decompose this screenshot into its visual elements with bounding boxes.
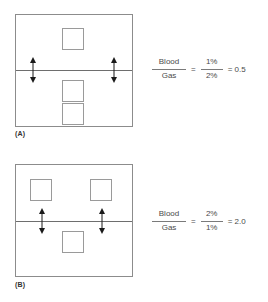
panel-b-compartment-box (15, 164, 133, 277)
panel-b-molecule-above-2 (90, 179, 112, 201)
blood-gas-partition-coefficient-figure: (A) Blood Gas = 1% 2% = 0.5 (0, 0, 268, 302)
panel-a-percent-numerator: 1% (201, 57, 223, 69)
panel-a-percent-denominator: 2% (201, 70, 223, 82)
panel-b-label: (B) (15, 281, 25, 288)
panel-a-label: (A) (15, 130, 25, 137)
panel-b-fraction-denominator: Gas (152, 222, 186, 234)
panel-b-percent-denominator: 1% (201, 222, 223, 234)
panel-a-percent-fraction: 1% 2% (201, 57, 223, 82)
panel-a: (A) Blood Gas = 1% 2% = 0.5 (0, 0, 268, 151)
panel-b-molecule-below-1 (62, 231, 84, 253)
panel-b-blood-gas-interface-line (16, 221, 132, 222)
panel-b-equals-sign: = (186, 217, 201, 226)
panel-a-equation: Blood Gas = 1% 2% = 0.5 (152, 57, 246, 82)
panel-a-equals-sign: = (186, 65, 201, 74)
panel-b-percent-fraction: 2% 1% (201, 209, 223, 234)
panel-a-exchange-arrow-right (108, 57, 120, 83)
panel-a-exchange-arrow-left (27, 57, 39, 83)
panel-a-molecule-below-2 (62, 103, 84, 125)
panel-a-compartment-box (15, 14, 133, 127)
panel-b-exchange-arrow-right (96, 208, 108, 234)
panel-a-fraction-denominator: Gas (152, 70, 186, 82)
panel-b-percent-numerator: 2% (201, 209, 223, 221)
panel-b-result: = 2.0 (223, 217, 246, 226)
panel-b-molecule-above-1 (30, 179, 52, 201)
panel-b-fraction-numerator: Blood (152, 209, 186, 221)
panel-a-molecule-above-1 (62, 28, 84, 50)
panel-a-molecule-below-1 (62, 80, 84, 102)
panel-b-equation: Blood Gas = 2% 1% = 2.0 (152, 209, 246, 234)
panel-b: (B) Blood Gas = 2% 1% = 2.0 (0, 151, 268, 302)
panel-a-blood-gas-fraction: Blood Gas (152, 57, 186, 82)
panel-a-result: = 0.5 (223, 65, 246, 74)
panel-a-fraction-numerator: Blood (152, 57, 186, 69)
panel-b-blood-gas-fraction: Blood Gas (152, 209, 186, 234)
panel-b-exchange-arrow-left (36, 208, 48, 234)
